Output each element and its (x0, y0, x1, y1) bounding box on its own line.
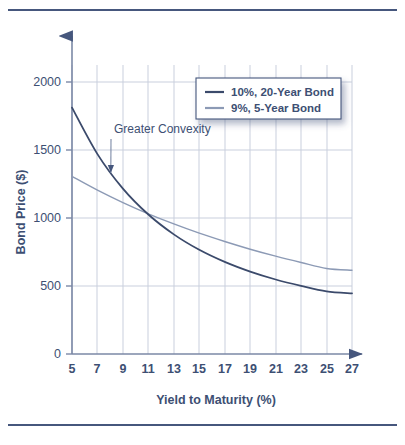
annotation-label: Greater Convexity (114, 122, 211, 136)
x-tick-label: 7 (94, 362, 101, 376)
y-tick-marks (66, 82, 72, 354)
legend-label-10pct-20yr: 10%, 20-Year Bond (231, 86, 334, 98)
legend-label-9pct-5yr: 9%, 5-Year Bond (231, 102, 321, 114)
y-tick-label: 0 (54, 347, 61, 361)
x-tick-label: 25 (320, 362, 334, 376)
x-tick-label: 13 (167, 362, 181, 376)
y-tick-label: 1000 (33, 211, 61, 225)
x-tick-label: 17 (218, 362, 232, 376)
y-tick-label: 2000 (33, 75, 61, 89)
x-tick-label: 19 (243, 362, 257, 376)
x-tick-label: 21 (269, 362, 283, 376)
x-tick-label: 15 (192, 362, 206, 376)
bond-price-chart: 0 500 1000 1500 2000 5 7 9 11 13 15 17 1… (0, 12, 405, 422)
x-tick-labels: 5 7 9 11 13 15 17 19 21 23 25 27 (69, 362, 359, 376)
x-tick-label: 27 (345, 362, 359, 376)
x-tick-label: 9 (120, 362, 127, 376)
x-axis-title: Yield to Maturity (%) (156, 393, 276, 407)
bottom-divider-rule (8, 424, 397, 426)
y-axis-title: Bond Price ($) (14, 170, 28, 255)
y-tick-label: 1500 (33, 143, 61, 157)
figure-container: 0 500 1000 1500 2000 5 7 9 11 13 15 17 1… (0, 0, 405, 445)
top-divider-rule (8, 9, 397, 11)
x-tick-label: 5 (69, 362, 76, 376)
x-tick-label: 23 (294, 362, 308, 376)
y-tick-labels: 0 500 1000 1500 2000 (33, 75, 61, 361)
x-tick-label: 11 (141, 362, 154, 376)
legend: 10%, 20-Year Bond 9%, 5-Year Bond (196, 78, 341, 119)
y-tick-label: 500 (40, 279, 61, 293)
